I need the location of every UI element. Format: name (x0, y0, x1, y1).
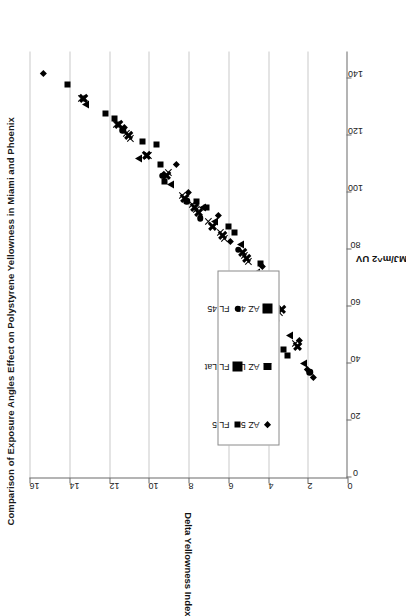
y-axis-tick-label: 10 (148, 481, 158, 491)
x-axis-tick-label: 0 (352, 467, 357, 477)
legend-item-az-5[interactable]: AZ 5 (240, 419, 273, 430)
y-axis-tick-label: 8 (188, 481, 193, 491)
y-axis-title-label: Delta Yellowness Index (183, 512, 194, 616)
y-axis-tick-label: 16 (29, 481, 39, 491)
x-axis-tick-label: 20 (350, 410, 360, 420)
x-axis-tick-label: 40 (350, 353, 360, 363)
legend-item-fl-45[interactable]: FL 45 (207, 303, 243, 314)
y-axis-tick-label: 4 (268, 481, 273, 491)
legend-item-label: FL 5 (212, 420, 229, 430)
y-axis-tick-label: 12 (109, 481, 119, 491)
chart-title: Comparison of Exposure Angles Effect on … (4, 117, 15, 525)
diamond-marker-icon (262, 419, 273, 430)
x-axis-tick-label: 120 (347, 125, 362, 135)
x-axis-title-label: MJ/m^2 UV (356, 254, 406, 265)
legend-item-fl-lat[interactable]: FL Lat (204, 361, 243, 372)
x-marker-icon (232, 361, 243, 372)
y-axis-title: Delta Yellowness Index (29, 51, 347, 478)
x-axis-tick-label: 100 (347, 182, 362, 192)
chart-legend: AZ 5FL 5AZ LatFL LatAZ 45FL 45 (217, 270, 279, 445)
x-axis-tick-label: 80 (350, 239, 360, 249)
y-axis-tick-label: 0 (347, 481, 352, 491)
triangle-marker-icon (262, 361, 273, 372)
x-bold-marker-icon (262, 303, 273, 314)
x-axis-tick-label: 60 (350, 296, 360, 306)
x-axis-tick-label: 140 (347, 68, 362, 78)
square-marker-icon (232, 419, 243, 430)
circle-marker-icon (232, 303, 243, 314)
y-axis-tick-label: 14 (69, 481, 79, 491)
legend-item-fl-5[interactable]: FL 5 (212, 419, 243, 430)
legend-item-label: FL Lat (204, 362, 229, 372)
y-axis-tick-label: 2 (307, 481, 312, 491)
y-axis-tick-label: 6 (228, 481, 233, 491)
legend-item-label: FL 45 (207, 304, 229, 314)
